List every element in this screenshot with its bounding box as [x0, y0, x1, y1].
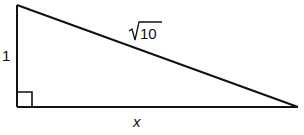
- right-angle-marker: [17, 92, 32, 107]
- triangle: [17, 5, 298, 107]
- right-triangle-diagram: 1 10 x: [0, 0, 304, 135]
- hypotenuse-radicand: 10: [140, 25, 157, 42]
- hypotenuse: [17, 5, 298, 107]
- horizontal-leg-label: x: [132, 113, 141, 130]
- hypotenuse-label: 10: [129, 22, 162, 42]
- vertical-leg-label: 1: [2, 47, 10, 64]
